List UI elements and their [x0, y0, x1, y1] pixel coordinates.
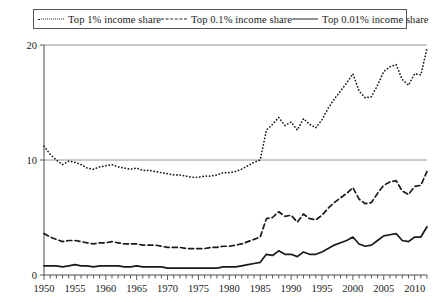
y-tick-labels: 01020	[27, 40, 38, 281]
plot-area: 01020 1950195519601965197019751980198519…	[0, 0, 435, 303]
x-tick-label: 1970	[157, 283, 178, 294]
x-tick-layer	[44, 275, 427, 280]
y-tick-label: 0	[32, 270, 37, 281]
x-tick-label: 1995	[311, 283, 332, 294]
series-line	[44, 48, 427, 177]
x-tick-label: 1975	[188, 283, 209, 294]
x-tick-label: 1965	[126, 283, 147, 294]
x-tick-label: 1990	[281, 283, 302, 294]
x-tick-label: 1985	[250, 283, 271, 294]
x-tick-label: 1960	[95, 283, 116, 294]
grid-layer	[44, 45, 427, 160]
x-tick-label: 2000	[342, 283, 363, 294]
series-layer	[44, 48, 427, 268]
x-tick-label: 2005	[373, 283, 394, 294]
series-line	[44, 227, 427, 268]
x-tick-label: 1950	[34, 283, 55, 294]
series-line	[44, 172, 427, 249]
y-tick-label: 20	[27, 40, 38, 51]
chart-root: Top 1% income share Top 0.1% income shar…	[0, 0, 435, 303]
y-tick-label: 10	[27, 155, 38, 166]
x-tick-label: 1955	[64, 283, 85, 294]
x-tick-label: 2010	[404, 283, 425, 294]
chart-svg: 01020 1950195519601965197019751980198519…	[0, 0, 435, 303]
x-tick-label: 1980	[219, 283, 240, 294]
x-tick-labels: 1950195519601965197019751980198519901995…	[34, 283, 426, 294]
